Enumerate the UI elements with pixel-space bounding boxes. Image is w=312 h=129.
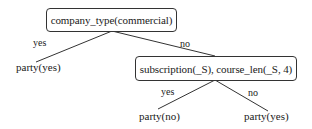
edge-sub-no [215,80,268,111]
root-yes-label: yes [33,37,46,48]
sub-yes-label: yes [161,86,174,97]
root-no-label: no [180,38,190,49]
leaf-party-yes-left: party(yes) [16,61,61,73]
leaf-party-no: party(no) [139,110,180,122]
root-node-label: company_type(commercial) [51,14,173,26]
edge-root-no [112,31,215,56]
subscription-node: subscription(_S), course_len(_S, 4) [135,56,297,81]
subscription-node-label: subscription(_S), course_len(_S, 4) [140,63,292,75]
leaf-party-yes-right: party(yes) [244,110,289,122]
root-node: company_type(commercial) [46,8,177,32]
edge-root-yes [36,31,112,62]
sub-no-label: no [248,87,258,98]
